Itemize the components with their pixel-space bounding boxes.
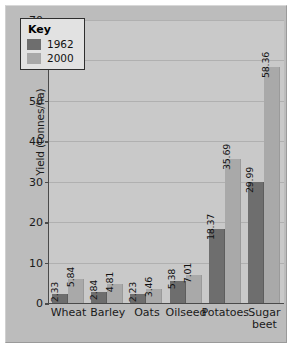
bar-value-label: 3.46 [143,277,154,297]
figure: Yield (tonnes/ha) 010203040506070 2.335.… [0,0,293,349]
bar-group: 2.844.81Barley [88,20,127,303]
bar-value-label: 2.33 [49,281,60,301]
legend-label: 2000 [47,52,74,64]
bar-value-label: 7.01 [182,262,193,282]
bar[interactable]: 2.33 [52,294,68,303]
legend-swatch-icon [27,53,41,64]
x-axis-category-label: Barley [90,307,125,319]
bar-value-label: 2.23 [127,282,138,302]
y-axis-tick [45,303,49,305]
x-axis-category-label: Sugar beet [248,307,280,331]
legend-entry[interactable]: 1962 [27,38,74,50]
bar[interactable]: 4.81 [107,284,123,303]
legend-title: Key [27,23,74,36]
legend: Key 19622000 [20,18,85,70]
bar-value-label: 5.38 [166,269,177,289]
x-axis-category-label: Potatoes [201,307,249,319]
bar-group: 29.9958.36Sugar beet [245,20,284,303]
bar[interactable]: 29.99 [248,182,264,303]
legend-label: 1962 [47,38,74,50]
legend-swatch-icon [27,39,41,50]
bar-value-label: 4.81 [104,271,115,291]
y-axis-tick-label: 50 [29,94,43,107]
legend-entry[interactable]: 2000 [27,52,74,64]
bar[interactable]: 5.38 [170,281,186,303]
bar-value-label: 5.84 [65,267,76,287]
y-axis-tick-label: 30 [29,175,43,188]
bar-value-label: 35.69 [221,144,232,170]
bar[interactable]: 2.84 [91,292,107,303]
y-axis-tick-label: 40 [29,135,43,148]
bar[interactable]: 7.01 [186,275,202,303]
bar-group: 18.3735.69Potatoes [206,20,245,303]
bar-group: 2.233.46Oats [127,20,166,303]
bar[interactable]: 58.36 [264,67,280,303]
x-axis-category-label: Oilseed [166,307,207,319]
bar[interactable]: 5.84 [68,279,84,303]
bar-value-label: 29.99 [244,167,255,193]
x-axis-category-label: Oats [134,307,159,319]
y-axis-tick-label: 0 [36,297,43,310]
bar-value-label: 2.84 [88,279,99,299]
y-axis-tick-label: 10 [29,256,43,269]
x-axis-category-label: Wheat [51,307,87,319]
bar[interactable]: 18.37 [209,229,225,303]
bar[interactable]: 35.69 [225,159,241,303]
bar[interactable]: 3.46 [146,289,162,303]
y-axis-tick-label: 20 [29,216,43,229]
legend-entries: 19622000 [27,38,74,64]
bar-value-label: 58.36 [260,52,271,78]
chart-board: Yield (tonnes/ha) 010203040506070 2.335.… [5,5,287,343]
bar-value-label: 18.37 [205,214,216,240]
bar-group: 5.387.01Oilseed [167,20,206,303]
